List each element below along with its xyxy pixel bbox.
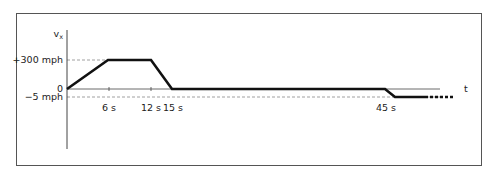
velocity-time-graph: vx t +300 mph 0 −5 mph 6 s 12 s 15 s 45 … — [0, 0, 497, 178]
x-tick-6s: 6 s — [102, 102, 116, 113]
y-tick-300: +300 mph — [13, 54, 63, 65]
x-tick-15s: 15 s — [163, 102, 183, 113]
x-tick-12s: 12 s — [141, 102, 161, 113]
velocity-curve — [67, 60, 428, 97]
y-axis-label: vx — [54, 28, 64, 41]
x-tick-45s: 45 s — [376, 102, 396, 113]
x-axis-label: t — [464, 83, 468, 94]
y-tick-neg5: −5 mph — [25, 91, 63, 102]
